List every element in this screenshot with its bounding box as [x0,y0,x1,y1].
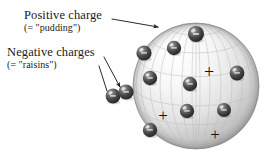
figure-canvas: +++ Positive charge (= "pudding") Negati… [0,0,266,163]
leader-lines [0,0,266,163]
negative-arrow-upper [104,57,120,87]
negative-arrow-lower [99,66,107,91]
positive-arrow [112,19,158,27]
